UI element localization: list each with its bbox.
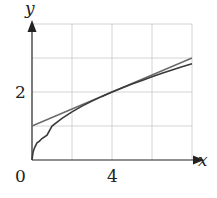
y-axis-label: y [24, 0, 35, 18]
origin-label: 0 [15, 166, 26, 186]
chart: y x 0 4 2 [0, 0, 217, 198]
axes [32, 32, 196, 160]
y-tick-label-2: 2 [15, 82, 26, 102]
x-tick-label-4: 4 [107, 166, 118, 186]
x-axis-label: x [198, 150, 208, 170]
y-axis-arrow-icon [28, 20, 37, 32]
